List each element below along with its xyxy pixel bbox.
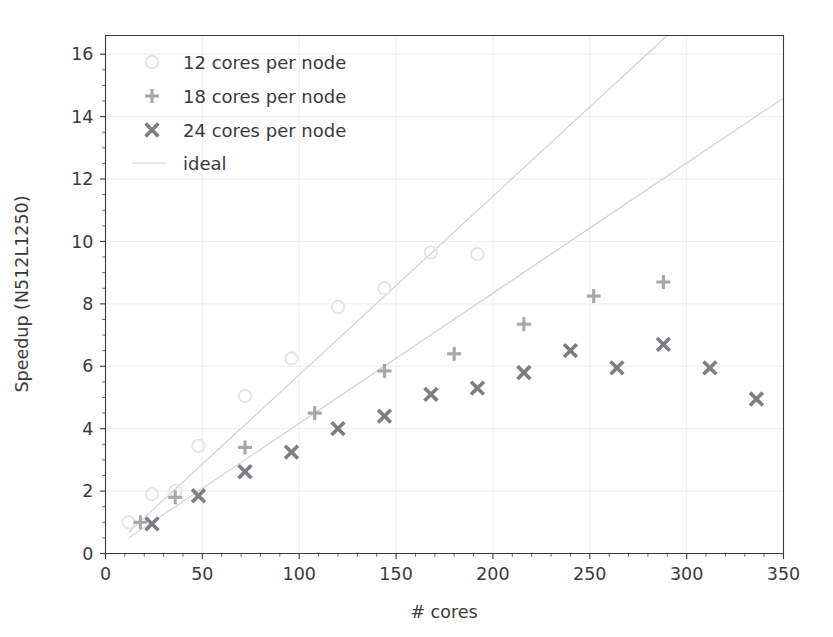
x-tick-label: 50: [191, 564, 213, 584]
data-point-x: [146, 517, 159, 530]
y-axis-title: Speedup (N512L1250): [12, 195, 32, 392]
data-point-x: [703, 361, 716, 374]
x-tick-label: 200: [476, 564, 509, 584]
y-tick-label: 14: [71, 107, 93, 127]
data-point-x: [378, 410, 391, 423]
legend-marker-circle: [146, 56, 158, 68]
axis-spines: [106, 36, 784, 554]
data-point-x: [564, 344, 577, 357]
data-point-circle: [378, 282, 390, 294]
ideal-line: [129, 36, 668, 532]
data-point-plus: [517, 317, 531, 331]
x-axis-title: # cores: [410, 602, 477, 622]
data-point-x: [657, 338, 670, 351]
y-tick-label: 2: [82, 481, 93, 501]
data-point-circle: [146, 488, 158, 500]
x-tick-label: 350: [767, 564, 800, 584]
x-tick-label: 100: [283, 564, 316, 584]
legend-entry-2: 18 cores per node: [145, 86, 346, 107]
legend-label: ideal: [183, 153, 227, 174]
y-tick-label: 6: [82, 356, 93, 376]
chart-figure: 0501001502002503003500246810121416 12 co…: [0, 0, 833, 637]
chart-legend: 12 cores per node18 cores per node24 cor…: [132, 52, 346, 174]
y-tick-label: 0: [82, 544, 93, 564]
data-point-plus: [168, 490, 182, 504]
legend-label: 12 cores per node: [183, 52, 346, 73]
data-point-x: [285, 446, 298, 459]
data-point-circle: [192, 440, 204, 452]
data-point-x: [471, 382, 484, 395]
data-point-circle: [471, 248, 483, 260]
data-point-x: [239, 465, 252, 478]
data-point-plus: [656, 275, 670, 289]
data-point-circle: [332, 301, 344, 313]
legend-label: 24 cores per node: [183, 120, 346, 141]
x-tick-label: 300: [670, 564, 703, 584]
data-point-x: [425, 388, 438, 401]
data-point-x: [518, 366, 531, 379]
speedup-scatter-plot: 0501001502002503003500246810121416 12 co…: [0, 0, 833, 637]
grid-lines: [106, 36, 784, 554]
data-point-plus: [447, 347, 461, 361]
data-point-circle: [123, 516, 135, 528]
y-tick-label: 4: [82, 419, 93, 439]
plot-frame: [106, 36, 784, 554]
series-x: [146, 338, 763, 530]
y-tick-label: 8: [82, 294, 93, 314]
y-tick-label: 10: [71, 232, 93, 252]
legend-entry-4: ideal: [132, 153, 227, 174]
legend-label: 18 cores per node: [183, 86, 346, 107]
y-tick-label: 16: [71, 44, 93, 64]
ideal-line: [129, 98, 784, 538]
data-series-markers: [123, 246, 763, 530]
legend-marker-x: [146, 124, 159, 137]
data-point-x: [750, 393, 763, 406]
data-point-plus: [238, 440, 252, 454]
data-point-plus: [587, 289, 601, 303]
x-tick-label: 250: [573, 564, 606, 584]
x-tick-label: 0: [100, 564, 111, 584]
y-tick-label: 12: [71, 169, 93, 189]
data-point-x: [611, 361, 624, 374]
data-point-circle: [285, 352, 297, 364]
data-point-circle: [425, 246, 437, 258]
data-point-plus: [308, 406, 322, 420]
series-circle: [123, 246, 484, 528]
x-tick-label: 150: [379, 564, 412, 584]
legend-entry-3: 24 cores per node: [146, 120, 347, 141]
legend-marker-plus: [145, 89, 159, 103]
data-point-circle: [239, 390, 251, 402]
ideal-reference-lines: [129, 36, 784, 538]
